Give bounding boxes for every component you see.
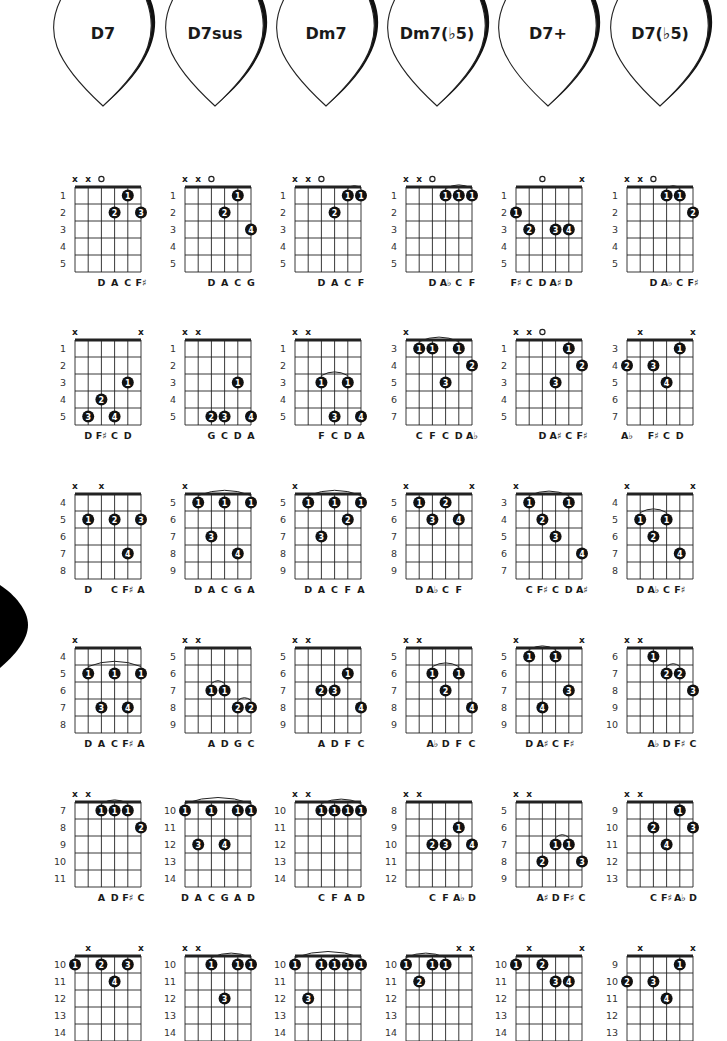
fret-number: 6 <box>60 531 66 542</box>
note-name: D <box>552 892 560 903</box>
finger-number: 1 <box>85 516 91 525</box>
note-name: D <box>689 892 697 903</box>
fret-number: 7 <box>391 685 397 696</box>
muted-string-marker: x <box>85 174 91 184</box>
finger-number: 3 <box>99 704 105 713</box>
finger-dot: 2 <box>576 360 588 372</box>
finger-dot: 1 <box>634 514 646 526</box>
fret-number: 5 <box>170 497 176 508</box>
finger-dot: 4 <box>109 976 121 988</box>
finger-dot: 3 <box>647 360 659 372</box>
finger-dot: 3 <box>647 976 659 988</box>
note-name: D <box>304 584 312 595</box>
finger-number: 1 <box>345 961 351 970</box>
fret-number: 6 <box>170 514 176 525</box>
note-name: F♯ <box>135 277 146 288</box>
finger-number: 1 <box>443 192 449 201</box>
finger-number: 2 <box>579 362 585 371</box>
fret-number: 3 <box>501 497 507 508</box>
finger-number: 1 <box>637 516 643 525</box>
finger-number: 4 <box>579 550 585 559</box>
finger-dot: 1 <box>82 514 94 526</box>
finger-dot: 1 <box>342 959 354 971</box>
finger-dot: 1 <box>82 668 94 680</box>
finger-dot: 4 <box>661 377 673 389</box>
finger-dot: 1 <box>135 668 147 680</box>
muted-string-marker: x <box>292 789 298 799</box>
finger-number: 2 <box>443 687 449 696</box>
muted-string-marker: x <box>403 789 409 799</box>
note-name: D <box>538 430 546 441</box>
finger-number: 1 <box>443 961 449 970</box>
fret-number: 1 <box>612 190 618 201</box>
fret-number: 4 <box>170 394 176 405</box>
finger-dot: 2 <box>536 514 548 526</box>
finger-dot: 1 <box>510 207 522 219</box>
muted-string-marker: x <box>469 481 475 491</box>
open-string-marker <box>540 176 545 181</box>
finger-number: 1 <box>513 961 519 970</box>
note-name: C <box>676 277 683 288</box>
fret-number: 3 <box>501 377 507 388</box>
fret-number: 11 <box>54 976 66 987</box>
fret-number: 4 <box>501 514 507 525</box>
fret-number: 2 <box>170 360 176 371</box>
fret-number: 14 <box>54 1027 66 1038</box>
muted-string-marker: x <box>138 327 144 337</box>
muted-string-marker: x <box>579 174 585 184</box>
note-name: A♯ <box>576 584 588 595</box>
note-name: D <box>565 584 573 595</box>
fret-number: 10 <box>606 719 618 730</box>
finger-number: 1 <box>209 687 215 696</box>
finger-number: 4 <box>566 226 572 235</box>
note-name: C <box>248 738 255 749</box>
finger-dot: 2 <box>109 207 121 219</box>
note-name: A♭ <box>426 738 438 749</box>
finger-number: 1 <box>456 345 462 354</box>
fret-number: 5 <box>501 258 507 269</box>
fret-number: 4 <box>501 241 507 252</box>
finger-number: 4 <box>677 550 683 559</box>
finger-dot: 1 <box>245 959 257 971</box>
fret-number: 3 <box>60 377 66 388</box>
note-name: D <box>428 277 436 288</box>
finger-dot: 1 <box>550 651 562 663</box>
chord-name-label: Dm7(♭5) <box>400 24 474 43</box>
muted-string-marker: x <box>292 481 298 491</box>
finger-number: 4 <box>235 550 241 559</box>
muted-string-marker: x <box>416 635 422 645</box>
finger-number: 1 <box>332 961 338 970</box>
finger-number: 1 <box>319 961 325 970</box>
finger-dot: 4 <box>122 702 134 714</box>
finger-dot: 2 <box>661 668 673 680</box>
finger-dot: 3 <box>219 993 231 1005</box>
finger-dot: 1 <box>122 377 134 389</box>
note-name: D <box>565 277 573 288</box>
muted-string-marker: x <box>416 174 422 184</box>
open-string-marker <box>99 176 104 181</box>
fret-number: 14 <box>164 1027 176 1038</box>
finger-number: 3 <box>319 533 325 542</box>
fret-number: 13 <box>495 1010 507 1021</box>
chord-diagram: 34567x11123CFCDA♭ <box>391 327 478 441</box>
fret-number: 9 <box>391 565 397 576</box>
fret-number: 12 <box>606 1010 618 1021</box>
fret-number: 11 <box>54 873 66 884</box>
note-name: A <box>331 277 339 288</box>
fret-number: 14 <box>274 1027 286 1038</box>
note-name: A <box>111 277 119 288</box>
fret-number: 6 <box>391 514 397 525</box>
fret-number: 7 <box>501 565 507 576</box>
chord-diagram: 45678xx1124DA♭CF♯ <box>612 481 696 595</box>
finger-number: 1 <box>112 670 118 679</box>
note-name: F♯ <box>674 584 685 595</box>
note-name: D <box>676 430 684 441</box>
pick-outline <box>499 0 597 106</box>
fret-number: 1 <box>501 343 507 354</box>
finger-dot: 1 <box>232 377 244 389</box>
finger-number: 3 <box>305 995 311 1004</box>
finger-number: 1 <box>456 192 462 201</box>
fret-number: 12 <box>385 993 397 1004</box>
fret-number: 7 <box>612 411 618 422</box>
finger-dot: 2 <box>205 411 217 423</box>
